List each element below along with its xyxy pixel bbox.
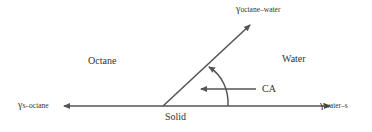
gamma-water-solid-label: γwater–s xyxy=(320,99,348,110)
solid-phase-label: Solid xyxy=(165,111,186,122)
gamma-solid-octane-label: γs–octane xyxy=(18,99,49,110)
contact-angle-arc xyxy=(209,67,228,106)
gamma-subscript: water–s xyxy=(324,101,347,110)
gamma-subscript: octane–water xyxy=(240,5,280,14)
gamma-octane-water-label: γoctane–water xyxy=(236,3,280,14)
gamma-subscript: s–octane xyxy=(22,101,48,110)
water-phase-label: Water xyxy=(282,53,306,64)
octane-water-vector xyxy=(163,25,250,106)
octane-phase-label: Octane xyxy=(88,55,116,66)
contact-angle-label: CA xyxy=(262,83,276,94)
